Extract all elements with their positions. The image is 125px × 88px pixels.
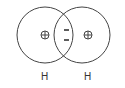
atom-left-label: H <box>41 72 48 82</box>
h2-bond-diagram <box>0 0 125 88</box>
atom-right-shell <box>54 7 110 63</box>
nucleus-right-plus-icon <box>84 31 92 39</box>
nucleus-left-plus-icon <box>41 31 49 39</box>
atom-right-label: H <box>84 72 91 82</box>
